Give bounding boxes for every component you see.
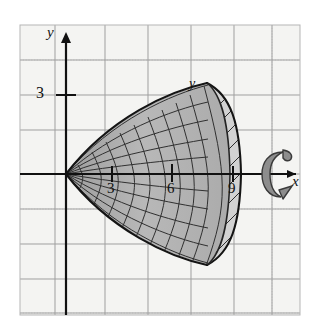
math-figure: y x y 3 3 6 9 (0, 0, 317, 334)
figure-canvas (0, 0, 317, 334)
x-axis-label: x (292, 173, 299, 190)
x-tick-label-6: 6 (167, 180, 175, 197)
y-axis-label: y (47, 24, 54, 41)
x-tick-label-3: 3 (107, 180, 115, 197)
x-tick-label-9: 9 (228, 180, 236, 197)
curve-label-y: y (189, 76, 195, 92)
y-tick-label-3: 3 (36, 84, 44, 102)
